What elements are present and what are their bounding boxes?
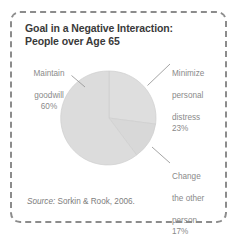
pie-label-change: Change the other person 17% xyxy=(172,160,232,234)
leader-line-minimize xyxy=(148,64,171,86)
source-text: Sorkin & Rook, 2006. xyxy=(55,197,135,206)
pie-label-maintain-percent: 60% xyxy=(18,101,80,112)
leader-line-change xyxy=(152,147,170,163)
pie-label-minimize-line-3: distress xyxy=(172,113,200,122)
source-label: Source: xyxy=(27,197,55,206)
source-citation: Source: Sorkin & Rook, 2006. xyxy=(27,196,135,207)
pie-label-minimize: Minimize personal distress 23% xyxy=(172,57,232,145)
pie-label-change-line-1: Change xyxy=(172,172,201,181)
pie-label-maintain-line-2: goodwill xyxy=(34,91,64,100)
pie-label-change-line-3: person xyxy=(172,216,197,225)
figure-container: Goal in a Negative Interaction: People o… xyxy=(0,0,240,234)
pie-label-minimize-line-1: Minimize xyxy=(172,69,204,78)
pie-slice-minimize xyxy=(109,71,156,124)
pie-label-maintain: Maintain goodwill 60% xyxy=(18,57,80,123)
pie-label-change-percent: 17% xyxy=(172,226,232,234)
pie-label-change-line-2: the other xyxy=(172,194,204,203)
pie-label-minimize-line-2: personal xyxy=(172,91,203,100)
pie-label-maintain-line-1: Maintain xyxy=(34,69,65,78)
pie-label-minimize-percent: 23% xyxy=(172,123,232,134)
